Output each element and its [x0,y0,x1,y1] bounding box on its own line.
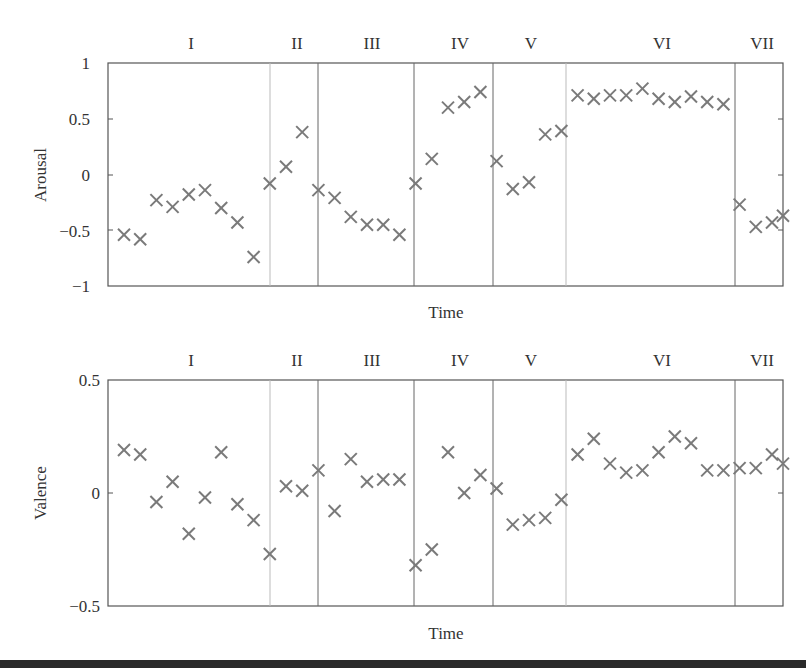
x-marker [296,126,308,138]
x-marker [393,473,405,485]
x-marker [150,496,162,508]
x-marker [685,90,697,102]
x-marker [750,221,762,233]
x-marker [701,464,713,476]
y-tick-label: −1 [72,277,90,296]
x-marker [118,444,130,456]
x-marker [604,458,616,470]
region-label-VI: VI [653,34,671,53]
x-marker [669,431,681,443]
region-label-II: II [291,351,303,370]
region-label-I: I [188,34,194,53]
x-marker [183,528,195,540]
region-label-VII: VII [750,34,774,53]
x-marker [215,202,227,214]
x-marker [572,89,584,101]
region-label-II: II [291,34,303,53]
arousal-region-dividers [270,63,735,286]
region-label-V: V [525,351,538,370]
x-marker [717,98,729,110]
x-marker [491,482,503,494]
x-marker [539,512,551,524]
arousal-data-points [118,83,789,263]
x-marker [280,480,292,492]
x-marker [183,189,195,201]
arousal-y-axis-label: Arousal [31,148,50,202]
x-marker [150,194,162,206]
x-marker [766,449,778,461]
valence-y-axis: 0.5 0 −0.5 [69,371,783,616]
x-marker [604,89,616,101]
x-marker [653,93,665,105]
valence-data-points [118,431,789,572]
y-tick-label: −0.5 [59,222,90,241]
y-tick-label: 0.5 [79,371,100,390]
x-marker [653,446,665,458]
x-marker [572,449,584,461]
x-marker [491,155,503,167]
x-marker [426,544,438,556]
valence-region-labels: I II III IV V VI VII [188,351,774,370]
x-marker [458,487,470,499]
arousal-x-axis-label: Time [428,303,463,322]
y-tick-label: −0.5 [69,597,100,616]
x-marker [345,453,357,465]
x-marker [377,219,389,231]
arousal-y-axis: 1 0.5 0 −0.5 −1 [59,54,783,296]
x-marker [685,437,697,449]
x-marker [523,176,535,188]
x-marker [231,216,243,228]
region-label-III: III [364,351,381,370]
x-marker [636,83,648,95]
page-edge-bar [0,660,806,668]
x-marker [329,505,341,517]
x-marker [118,229,130,241]
x-marker [167,476,179,488]
x-marker [442,446,454,458]
x-marker [701,96,713,108]
x-marker [134,233,146,245]
x-marker [766,216,778,228]
region-label-V: V [525,34,538,53]
arousal-panel: I II III IV V VI VII 1 0.5 0 −0.5 −1 Aro… [31,34,789,322]
x-marker [248,251,260,263]
y-tick-label: 0 [82,166,91,185]
x-marker [134,449,146,461]
arousal-region-labels: I II III IV V VI VII [188,34,774,53]
x-marker [507,519,519,531]
x-marker [523,514,535,526]
x-marker [296,485,308,497]
x-marker [280,161,292,173]
x-marker [248,514,260,526]
x-marker [361,219,373,231]
x-marker [345,211,357,223]
y-tick-label: 1 [82,54,91,73]
x-marker [458,96,470,108]
valence-x-axis-label: Time [428,624,463,643]
valence-y-axis-label: Valence [31,466,50,520]
region-label-VI: VI [653,351,671,370]
x-marker [361,476,373,488]
region-label-IV: IV [451,34,470,53]
x-marker [507,183,519,195]
x-marker [474,469,486,481]
x-marker [620,467,632,479]
x-marker [669,96,681,108]
x-marker [750,462,762,474]
x-marker [377,473,389,485]
x-marker [410,559,422,571]
x-marker [620,89,632,101]
x-marker [167,201,179,213]
region-label-IV: IV [451,351,470,370]
y-tick-label: 0 [92,484,101,503]
x-marker [588,93,600,105]
x-marker [215,446,227,458]
x-marker [636,464,648,476]
x-marker [393,229,405,241]
x-marker [474,86,486,98]
x-marker [717,464,729,476]
valence-panel: I II III IV V VI VII 0.5 0 −0.5 Valence … [31,351,789,643]
arousal-plot-frame [108,63,783,286]
x-marker [410,177,422,189]
x-marker [199,492,211,504]
